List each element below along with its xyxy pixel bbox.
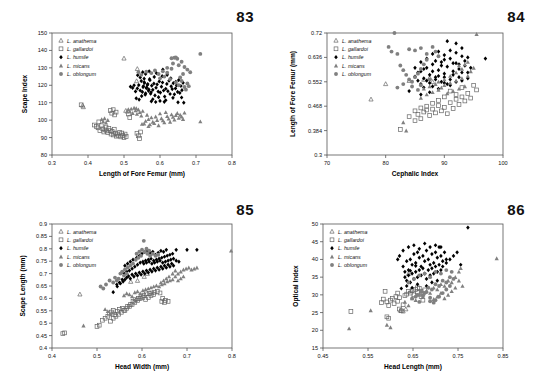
legend: L. anathemaL. gallardoiL. humileL. mican… [334, 38, 372, 78]
data-point [457, 103, 461, 107]
x-tick-label: 0.5 [93, 353, 101, 359]
x-tick-label: 0.7 [192, 160, 200, 166]
data-point [396, 257, 400, 261]
data-point [405, 284, 409, 288]
x-tick-label: 0.7 [183, 353, 191, 359]
data-point [401, 264, 405, 268]
data-point [154, 115, 158, 119]
legend-label: L. anathema [67, 229, 97, 235]
data-point [466, 92, 470, 96]
data-point [437, 263, 441, 267]
data-point [434, 50, 438, 54]
legend-label: L. anathema [338, 229, 368, 235]
series-l-oblongum [387, 31, 441, 92]
y-tick-label: 0.3 [314, 152, 322, 158]
data-point [484, 56, 488, 60]
data-point [170, 67, 174, 71]
data-point [460, 46, 464, 50]
data-point [164, 260, 168, 264]
y-tick-label: 0.9 [39, 221, 47, 227]
data-point [185, 248, 189, 252]
data-point [445, 39, 449, 43]
x-tick-label: 100 [498, 160, 507, 166]
data-point [135, 67, 139, 71]
data-point [104, 283, 108, 287]
data-point [168, 253, 172, 257]
data-point [412, 277, 416, 281]
data-point [140, 94, 144, 98]
data-point [436, 256, 440, 260]
data-point [165, 248, 169, 252]
data-point [407, 115, 411, 119]
data-point [168, 92, 172, 96]
data-point [441, 291, 445, 295]
data-point [59, 64, 63, 68]
data-point [135, 278, 139, 282]
data-point [425, 290, 429, 294]
panel-83: 83 0.30.40.50.60.70.88090100110120130140… [0, 0, 270, 193]
data-point [414, 295, 418, 299]
data-point [184, 88, 188, 92]
data-point [448, 81, 452, 85]
data-point [412, 243, 416, 247]
data-point [330, 255, 334, 259]
x-axis-title: Cephalic Index [392, 170, 439, 178]
data-point [122, 56, 126, 60]
y-tick-label: 0.6 [39, 295, 47, 301]
y-tick-label: 0.7 [39, 271, 47, 277]
y-tick-label: 0.55 [36, 308, 47, 314]
series-l-oblongum [99, 239, 160, 290]
data-point [413, 66, 417, 70]
data-point [410, 85, 414, 89]
data-point [417, 273, 421, 277]
legend: L. anathemaL. gallardoiL. humileL. mican… [330, 229, 368, 269]
data-point [422, 62, 426, 66]
data-point [404, 307, 408, 311]
data-point [387, 45, 391, 49]
data-point [414, 270, 418, 274]
data-point [404, 129, 408, 133]
data-point [163, 255, 167, 259]
data-point [142, 239, 146, 243]
data-point [403, 300, 407, 304]
data-point [442, 284, 446, 288]
y-tick-label: 0.384 [308, 128, 322, 134]
data-point [444, 268, 448, 272]
data-point [136, 70, 140, 74]
data-point [158, 99, 162, 103]
data-point [434, 111, 438, 115]
data-point [460, 54, 464, 58]
y-tick-label: 0.636 [308, 54, 322, 60]
data-point [174, 248, 178, 252]
data-point [59, 238, 63, 242]
data-point [454, 79, 458, 83]
data-point [454, 51, 458, 55]
data-point [432, 301, 436, 305]
data-point [177, 260, 181, 264]
data-point [198, 52, 202, 56]
data-point [437, 74, 441, 78]
data-point [330, 229, 334, 233]
data-point [442, 296, 446, 300]
data-point [400, 286, 404, 290]
scatter-plot-83: 0.30.40.50.60.70.88090100110120130140150… [0, 0, 270, 193]
data-point [419, 83, 423, 87]
x-axis-title: Head Length (mm) [384, 363, 442, 371]
data-point [135, 289, 139, 293]
data-point [459, 266, 463, 270]
x-tick-label: 0.55 [363, 353, 374, 359]
data-point [330, 238, 334, 242]
x-tick-label: 0.8 [228, 353, 236, 359]
data-point [416, 72, 420, 76]
panel-85: 85 0.40.50.60.70.80.40.450.50.550.60.650… [0, 193, 270, 386]
data-point [448, 101, 452, 105]
series-l-oblongum [407, 268, 456, 304]
data-point [450, 280, 454, 284]
data-point [441, 279, 445, 283]
legend-label: L. micans [342, 63, 365, 69]
data-point [434, 270, 438, 274]
data-point [452, 254, 456, 258]
data-point [418, 268, 422, 272]
data-point [385, 323, 389, 327]
data-point [428, 296, 432, 300]
